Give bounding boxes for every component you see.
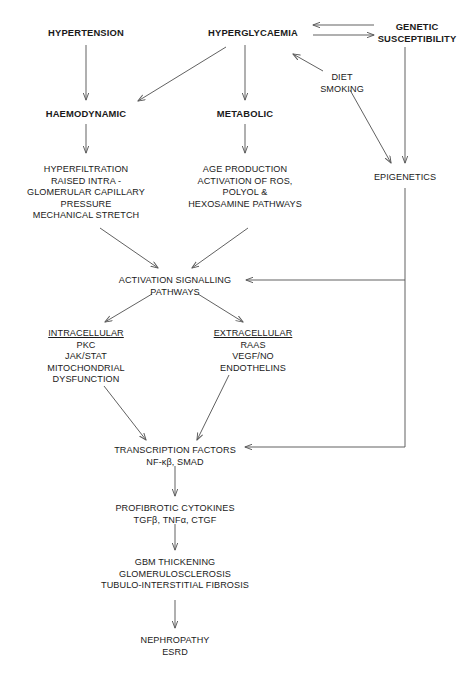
node-transcription-factors-line-1: NF-κβ, SMAD <box>114 457 236 469</box>
node-epigenetics: EPIGENETICS <box>374 172 436 184</box>
node-profibrotic-cytokines-line-0: PROFIBROTIC CYTOKINES <box>115 503 234 515</box>
node-metabolic-mechanisms-line-2: POLYOL & <box>188 187 302 199</box>
node-genetic-susceptibility: GENETICSUSCEPTIBILITY <box>378 21 457 44</box>
node-haemodynamic-mechanisms-line-2: GLOMERULAR CAPILLARY <box>27 187 145 199</box>
node-haemodynamic-mechanisms-line-1: RAISED INTRA - <box>27 176 145 188</box>
node-diet-smoking-line-1: SMOKING <box>320 84 364 96</box>
node-hyperglycaemia: HYPERGLYCAEMIA <box>208 27 298 39</box>
node-haemodynamic-mechanisms-line-4: MECHANICAL STRETCH <box>27 210 145 222</box>
arrow-metabolic-detail-to-signalling <box>192 228 248 268</box>
node-haemodynamic-mechanisms-line-0: HYPERFILTRATION <box>27 164 145 176</box>
node-extracellular-pathways-line-1: VEGF/NO <box>214 351 293 363</box>
node-metabolic: METABOLIC <box>217 108 273 120</box>
node-metabolic-mechanisms: AGE PRODUCTIONACTIVATION OF ROS,POLYOL &… <box>188 164 302 210</box>
node-hypertension: HYPERTENSION <box>48 27 124 39</box>
node-intracellular-pathways-header: INTRACELLULAR <box>47 328 124 340</box>
node-transcription-factors-line-0: TRANSCRIPTION FACTORS <box>114 445 236 457</box>
node-intracellular-pathways-line-1: JAK/STAT <box>47 351 124 363</box>
arrow-intracellular-to-transcription-factors <box>104 386 146 440</box>
node-epigenetics-line-0: EPIGENETICS <box>374 172 436 184</box>
node-hyperglycaemia-line-0: HYPERGLYCAEMIA <box>208 27 298 39</box>
node-transcription-factors: TRANSCRIPTION FACTORSNF-κβ, SMAD <box>114 445 236 468</box>
node-extracellular-pathways: EXTRACELLULARRAASVEGF/NOENDOTHELINS <box>214 328 293 374</box>
node-nephropathy-esrd-line-0: NEPHROPATHY <box>141 635 210 647</box>
node-activation-signalling-pathways: ACTIVATION SIGNALLINGPATHWAYS <box>119 275 231 298</box>
arrow-extracellular-to-transcription-factors <box>197 375 229 440</box>
arrow-diet-smoking-to-epigenetics <box>350 90 391 163</box>
node-nephropathy-esrd: NEPHROPATHYESRD <box>141 635 210 658</box>
node-extracellular-pathways-header: EXTRACELLULAR <box>214 328 293 340</box>
arrow-haemodynamic-detail-to-signalling <box>100 228 158 268</box>
node-metabolic-line-0: METABOLIC <box>217 108 273 120</box>
node-intracellular-pathways-line-3: DYSFUNCTION <box>47 374 124 386</box>
node-extracellular-pathways-line-0: RAAS <box>214 340 293 352</box>
arrow-signalling-to-extracellular <box>198 294 243 322</box>
node-metabolic-mechanisms-line-3: HEXOSAMINE PATHWAYS <box>188 199 302 211</box>
node-extracellular-pathways-line-2: ENDOTHELINS <box>214 363 293 375</box>
node-haemodynamic-line-0: HAEMODYNAMIC <box>46 108 126 120</box>
node-structural-kidney-damage-line-0: GBM THICKENING <box>101 557 249 569</box>
node-haemodynamic-mechanisms-line-3: PRESSURE <box>27 199 145 211</box>
node-structural-kidney-damage-line-2: TUBULO-INTERSTITIAL FIBROSIS <box>101 580 249 592</box>
node-activation-signalling-pathways-line-0: ACTIVATION SIGNALLING <box>119 275 231 287</box>
node-haemodynamic: HAEMODYNAMIC <box>46 108 126 120</box>
node-haemodynamic-mechanisms: HYPERFILTRATIONRAISED INTRA -GLOMERULAR … <box>27 164 145 222</box>
node-hypertension-line-0: HYPERTENSION <box>48 27 124 39</box>
node-intracellular-pathways-line-0: PKC <box>47 340 124 352</box>
node-intracellular-pathways-line-2: MITOCHONDRIAL <box>47 363 124 375</box>
node-metabolic-mechanisms-line-1: ACTIVATION OF ROS, <box>188 176 302 188</box>
arrow-hyperglycaemia-to-haemodynamic <box>138 47 226 101</box>
node-intracellular-pathways: INTRACELLULARPKCJAK/STATMITOCHONDRIALDYS… <box>47 328 124 386</box>
node-metabolic-mechanisms-line-0: AGE PRODUCTION <box>188 164 302 176</box>
node-structural-kidney-damage: GBM THICKENINGGLOMERULOSCLEROSISTUBULO-I… <box>101 557 249 592</box>
node-diet-smoking-line-0: DIET <box>320 72 364 84</box>
node-profibrotic-cytokines-line-1: TGFβ, TNFα, CTGF <box>115 515 234 527</box>
arrow-diet-smoking-to-hyperglycaemia <box>293 54 323 71</box>
node-nephropathy-esrd-line-1: ESRD <box>141 647 210 659</box>
node-diet-smoking: DIETSMOKING <box>320 72 364 95</box>
arrow-signalling-to-intracellular <box>105 294 152 322</box>
node-genetic-susceptibility-line-0: GENETIC <box>378 21 457 33</box>
node-activation-signalling-pathways-line-1: PATHWAYS <box>119 287 231 299</box>
node-structural-kidney-damage-line-1: GLOMERULOSCLEROSIS <box>101 569 249 581</box>
node-profibrotic-cytokines: PROFIBROTIC CYTOKINESTGFβ, TNFα, CTGF <box>115 503 234 526</box>
flowchart-diagram: HYPERTENSIONHYPERGLYCAEMIAGENETICSUSCEPT… <box>0 0 471 676</box>
node-genetic-susceptibility-line-1: SUSCEPTIBILITY <box>378 33 457 45</box>
